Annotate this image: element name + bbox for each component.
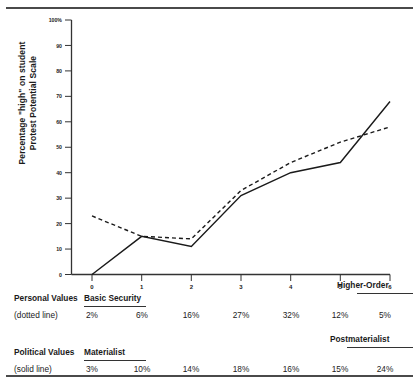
- row-label-personal-values: Personal Values: [14, 293, 78, 303]
- table-cell: 12%: [319, 310, 361, 320]
- table-cell: 16%: [170, 310, 212, 320]
- y-tick-label: 20: [56, 221, 62, 227]
- row-sublabel-personal-values: (dotted line): [14, 310, 58, 320]
- table-cell: 24%: [364, 364, 406, 374]
- y-tick-label: 90: [56, 43, 62, 49]
- right-anchor-postmaterialist: Postmaterialist: [330, 334, 389, 344]
- data-table: Personal Values (dotted line) Basic Secu…: [0, 289, 419, 381]
- table-row: Personal Values (dotted line) Basic Secu…: [0, 289, 419, 327]
- left-anchor-rule: [84, 360, 146, 361]
- table-cell: 2%: [71, 310, 113, 320]
- table-cell: 16%: [270, 364, 312, 374]
- series-line-political-values: [92, 101, 390, 274]
- y-tick-label: 50: [56, 144, 62, 150]
- right-anchor-higher-order: Higher-Order: [337, 280, 389, 290]
- table-cell: 32%: [270, 310, 312, 320]
- y-tick-label: 60: [56, 119, 62, 125]
- y-tick-label: 70: [56, 93, 62, 99]
- y-tick-label: 0: [59, 272, 62, 278]
- series-line-personal-values: [92, 127, 390, 239]
- table-row: Political Values (solid line) Materialis…: [0, 343, 419, 381]
- y-tick-label: 100%: [49, 17, 63, 23]
- right-anchor-rule: [347, 347, 413, 348]
- line-chart: 100% 90 80 70 60 50 40 30 20 10 0: [0, 0, 419, 290]
- plot-area: Percentage "high" on student Protest Pot…: [0, 0, 419, 290]
- table-cell: 18%: [220, 364, 262, 374]
- table-cell: 6%: [121, 310, 163, 320]
- left-anchor-materialist: Materialist: [84, 347, 125, 357]
- table-cell: 3%: [71, 364, 113, 374]
- left-anchor-basic-security: Basic Security: [84, 293, 141, 303]
- y-tick-label: 80: [56, 68, 62, 74]
- right-anchor-rule: [357, 293, 413, 294]
- left-anchor-rule: [84, 306, 146, 307]
- figure-page: Percentage "high" on student Protest Pot…: [0, 0, 419, 385]
- row-sublabel-political-values: (solid line): [14, 364, 52, 374]
- y-tick-label: 10: [56, 246, 62, 252]
- y-tick-label: 40: [56, 170, 62, 176]
- table-cell: 5%: [364, 310, 406, 320]
- y-tick-labels: 100% 90 80 70 60 50 40 30 20 10 0: [49, 17, 63, 278]
- row-label-political-values: Political Values: [14, 347, 74, 357]
- table-cell: 15%: [319, 364, 361, 374]
- y-ticks: [65, 20, 72, 275]
- y-tick-label: 30: [56, 195, 62, 201]
- table-cell: 14%: [170, 364, 212, 374]
- table-cell: 27%: [220, 310, 262, 320]
- table-cell: 10%: [121, 364, 163, 374]
